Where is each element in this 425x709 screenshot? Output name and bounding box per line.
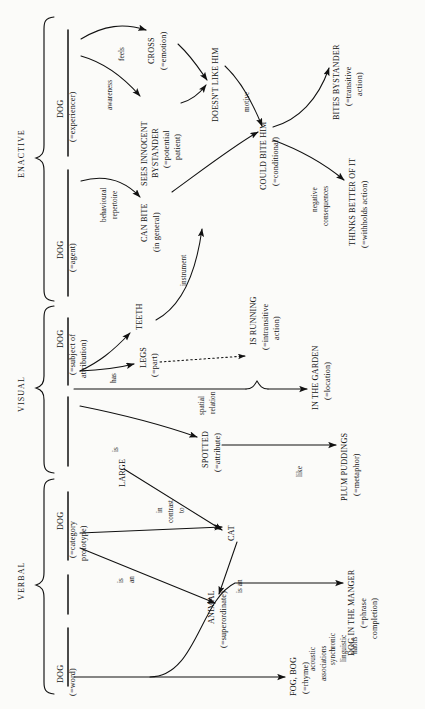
edge-label-behavioural: behavioural: [100, 188, 108, 222]
node-fog-bog: FOG, BOG: [289, 657, 298, 696]
node-dog-in-the-manger-gloss1: (=phrase: [359, 598, 368, 628]
diagram-canvas: ENACTIVE VISUAL VERBAL DOG (=experiencer…: [0, 0, 425, 709]
node-in-the-garden-gloss: (=location): [323, 362, 332, 400]
node-dog-word: DOG: [56, 665, 65, 683]
node-dog-category-prototype: DOG: [56, 512, 65, 530]
group-label-visual: VISUAL: [18, 376, 27, 412]
node-thinks-better-of-it-gloss: (=withholds action): [360, 181, 369, 248]
edge-label-like: like: [296, 466, 304, 477]
node-animal: ANIMAL: [207, 590, 216, 624]
node-can-bite-gloss: (in general): [152, 212, 161, 252]
node-spotted: SPOTTED: [201, 431, 210, 468]
node-dog-category-gloss1: (=category: [68, 521, 77, 558]
node-spotted-gloss: (=attribute): [213, 433, 222, 472]
node-dog-subject-gloss1: (=subject of: [68, 334, 77, 375]
node-in-the-garden: IN THE GARDEN: [311, 345, 320, 410]
group-label-enactive: ENACTIVE: [18, 129, 27, 178]
node-plum-puddings: PLUM PUDDINGS: [340, 433, 349, 501]
brace-enactive: [36, 17, 54, 301]
edge-canbite-couldbite: [172, 132, 258, 192]
node-dog-agent-gloss: (=agent): [68, 243, 77, 272]
edge-label-linguistic: linguistic: [340, 635, 348, 662]
edge-label-has: has: [110, 373, 118, 383]
node-doesnt-like-him: DOESN'T LIKE HIM: [211, 47, 220, 122]
node-sees-innocent-bystander-line2: BYSTANDER: [151, 128, 160, 178]
node-teeth: TEETH: [135, 303, 144, 330]
edge-label-associations: associations: [320, 646, 328, 681]
edge-label-repertoire: repertoire: [111, 191, 119, 219]
node-cross: CROSS: [147, 37, 156, 64]
edge-label-motive: motive: [243, 92, 251, 112]
node-cross-gloss: (=emotion): [159, 32, 168, 70]
edge-cross-to-dislike: [178, 44, 207, 80]
node-plum-puddings-gloss: (=metaphor): [352, 453, 361, 496]
node-could-bite-him-gloss: (=conditional): [271, 137, 280, 186]
edge-proto-cat: [80, 527, 222, 533]
edge-label-contrast: contrast: [167, 500, 175, 523]
edge-negative-consequences: [273, 140, 344, 180]
edge-label-instrument: instrument: [180, 255, 188, 286]
node-dog-experiencer: DOG: [56, 100, 65, 118]
node-dog-agent: DOG: [56, 241, 65, 259]
edge-label-awareness: awareness: [106, 80, 114, 110]
node-dog-in-the-manger-gloss2: completion): [370, 598, 379, 639]
node-cat: CAT: [227, 525, 236, 541]
node-sees-innocent-bystander-line1: SEES INNOCENT: [140, 121, 149, 186]
edge-label-synchronic: synchronic: [329, 633, 337, 665]
node-large: LARGE: [118, 459, 127, 487]
edge-label-cat-is-an: is an: [236, 579, 244, 593]
node-sees-innocent-bystander-gloss1: (=potential: [162, 130, 171, 168]
node-bites-bystander: BITES BYSTANDER: [332, 44, 341, 120]
node-is-running-gloss1: (=intransitive: [261, 304, 270, 350]
node-dog-subject-of-attribution: DOG: [56, 330, 65, 348]
node-legs: LEGS: [139, 347, 148, 368]
brace-verbal: [36, 479, 54, 694]
edge-label-consequences: consequences: [322, 186, 330, 226]
node-is-running-gloss2: action): [272, 316, 281, 340]
node-bites-bystander-gloss2: action): [355, 72, 364, 96]
node-animal-gloss: (=superordinate): [219, 591, 228, 648]
edge-bystander-to-dislike: [181, 85, 206, 103]
node-could-bite-him: COULD BITE HIM: [259, 121, 268, 190]
edge-feels: [81, 26, 146, 39]
edge-bites-bystander: [273, 68, 329, 127]
node-is-running: IS RUNNING: [249, 296, 258, 345]
node-thinks-better-of-it: THINKS BETTER OF IT: [348, 158, 357, 246]
edge-label-is2: is: [117, 578, 125, 583]
node-dog-experiencer-gloss: (=experiencer): [68, 92, 77, 142]
node-dog-category-gloss2: prototype): [79, 525, 88, 561]
edge-label-relation: relation: [209, 392, 217, 414]
edge-legs-running: [160, 356, 245, 362]
edge-label-feels: feels: [118, 47, 126, 61]
edge-label-an: an: [128, 576, 136, 583]
edge-label-negative: negative: [311, 187, 319, 212]
brace-visual: [36, 306, 54, 473]
node-sees-innocent-bystander-gloss2: patient): [173, 134, 182, 160]
edge-label-habits: habits: [351, 637, 359, 654]
edge-spatial-notch: [246, 381, 268, 389]
edge-label-spatial: spatial: [198, 396, 206, 415]
edge-is-an-animal: [80, 548, 215, 603]
node-dog-word-gloss: (=word): [68, 668, 77, 696]
node-dog-subject-gloss2: attribution): [79, 339, 88, 378]
node-can-bite: CAN BITE: [140, 203, 149, 242]
edge-is-spotted: [80, 406, 197, 437]
edge-label-to: to: [178, 507, 186, 513]
node-legs-gloss: (=part): [150, 353, 159, 377]
edge-label-in: in: [156, 507, 164, 513]
group-label-verbal: VERBAL: [18, 561, 27, 600]
node-bites-bystander-gloss1: (=transitive: [344, 66, 353, 106]
edge-label-is: is: [112, 447, 120, 452]
edge-label-acoustic: acoustic: [309, 647, 317, 671]
